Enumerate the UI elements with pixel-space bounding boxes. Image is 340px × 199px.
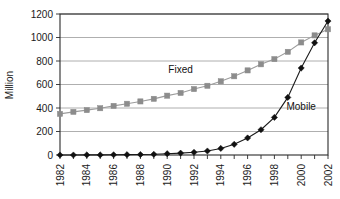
x-tick-label: 1988 bbox=[135, 164, 146, 187]
marker-fixed bbox=[71, 109, 76, 114]
marker-fixed bbox=[218, 79, 223, 84]
marker-mobile bbox=[298, 65, 304, 71]
marker-fixed bbox=[191, 86, 196, 91]
marker-fixed bbox=[245, 68, 250, 73]
x-tick-label: 1982 bbox=[55, 164, 66, 187]
marker-mobile bbox=[57, 152, 63, 158]
marker-mobile bbox=[124, 152, 130, 158]
marker-mobile bbox=[97, 152, 103, 158]
y-tick-label: 600 bbox=[36, 79, 53, 90]
x-tick-label: 1986 bbox=[108, 164, 119, 187]
y-tick-label: 0 bbox=[47, 150, 53, 161]
marker-mobile bbox=[111, 152, 117, 158]
marker-mobile bbox=[245, 135, 251, 141]
series-label-mobile: Mobile bbox=[286, 101, 316, 112]
marker-fixed bbox=[98, 106, 103, 111]
marker-mobile bbox=[218, 145, 224, 151]
marker-fixed bbox=[165, 93, 170, 98]
marker-fixed bbox=[205, 83, 210, 88]
y-tick-label: 400 bbox=[36, 103, 53, 114]
x-tick-label: 1990 bbox=[162, 164, 173, 187]
y-tick-label: 200 bbox=[36, 126, 53, 137]
marker-mobile bbox=[231, 141, 237, 147]
marker-mobile bbox=[137, 151, 143, 157]
marker-mobile bbox=[312, 40, 318, 46]
marker-fixed bbox=[299, 40, 304, 45]
x-tick-label: 1998 bbox=[269, 164, 280, 187]
y-tick-label: 1000 bbox=[31, 32, 54, 43]
marker-fixed bbox=[325, 27, 330, 32]
x-axis-ticks-group: 1982198419861988199019921994199619982000… bbox=[55, 155, 334, 186]
x-tick-label: 1984 bbox=[81, 164, 92, 187]
marker-mobile bbox=[285, 94, 291, 100]
y-tick-label: 800 bbox=[36, 56, 53, 67]
y-axis-title: Million bbox=[4, 71, 15, 99]
x-tick-label: 2002 bbox=[323, 164, 334, 187]
y-tick-label: 1200 bbox=[31, 9, 54, 20]
marker-fixed bbox=[285, 49, 290, 54]
gridlines-group bbox=[60, 14, 328, 132]
series-group bbox=[57, 18, 331, 158]
marker-fixed bbox=[57, 111, 62, 116]
marker-fixed bbox=[178, 90, 183, 95]
marker-fixed bbox=[232, 74, 237, 79]
line-chart: 020040060080010001200 198219841986198819… bbox=[0, 0, 340, 199]
marker-fixed bbox=[124, 101, 129, 106]
marker-mobile bbox=[325, 18, 331, 24]
series-annotations-group: FixedMobile bbox=[168, 64, 316, 113]
marker-fixed bbox=[272, 57, 277, 62]
marker-fixed bbox=[312, 33, 317, 38]
marker-fixed bbox=[138, 99, 143, 104]
x-tick-label: 1996 bbox=[242, 164, 253, 187]
x-tick-label: 1994 bbox=[215, 164, 226, 187]
marker-mobile bbox=[70, 152, 76, 158]
y-axis-ticks-group: 020040060080010001200 bbox=[31, 9, 60, 161]
marker-mobile bbox=[204, 148, 210, 154]
chart-container: 020040060080010001200 198219841986198819… bbox=[0, 0, 340, 199]
marker-fixed bbox=[151, 96, 156, 101]
series-label-fixed: Fixed bbox=[168, 64, 192, 75]
marker-mobile bbox=[151, 151, 157, 157]
marker-mobile bbox=[164, 151, 170, 157]
marker-fixed bbox=[258, 62, 263, 67]
marker-fixed bbox=[111, 103, 116, 108]
marker-fixed bbox=[84, 108, 89, 113]
marker-mobile bbox=[84, 152, 90, 158]
x-tick-label: 2000 bbox=[296, 164, 307, 187]
x-tick-label: 1992 bbox=[189, 164, 200, 187]
